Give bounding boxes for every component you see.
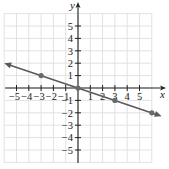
x-axis-label: x — [159, 88, 165, 100]
graph-line — [7, 64, 158, 115]
data-series — [4, 63, 161, 117]
y-axis-label: y — [69, 0, 75, 11]
y-tick-label: −4 — [62, 132, 74, 143]
data-point — [112, 98, 117, 103]
data-point — [149, 110, 154, 115]
line-arrow-left-icon — [4, 63, 12, 69]
x-tick-label: −4 — [21, 91, 33, 102]
y-tick-label: 5 — [68, 21, 73, 32]
y-tick-label: −2 — [62, 108, 73, 119]
data-point — [39, 73, 44, 78]
y-tick-label: −3 — [62, 120, 73, 131]
x-tick-label: −3 — [34, 91, 45, 102]
y-tick-label: −1 — [62, 95, 73, 106]
data-point — [75, 85, 80, 90]
x-tick-label: −2 — [46, 91, 57, 102]
y-tick-label: −5 — [62, 145, 73, 156]
x-tick-label: 4 — [125, 91, 131, 102]
y-tick-label: 1 — [68, 70, 73, 81]
y-tick-label: 4 — [68, 33, 74, 44]
x-tick-label: −5 — [9, 91, 20, 102]
x-tick-label: 5 — [137, 91, 142, 102]
y-tick-label: 2 — [68, 58, 73, 69]
coordinate-plane: −5−4−3−2−11234554321−1−2−3−4−5 x y — [0, 0, 169, 169]
y-tick-label: 3 — [68, 46, 73, 57]
line-arrow-right-icon — [154, 111, 162, 117]
